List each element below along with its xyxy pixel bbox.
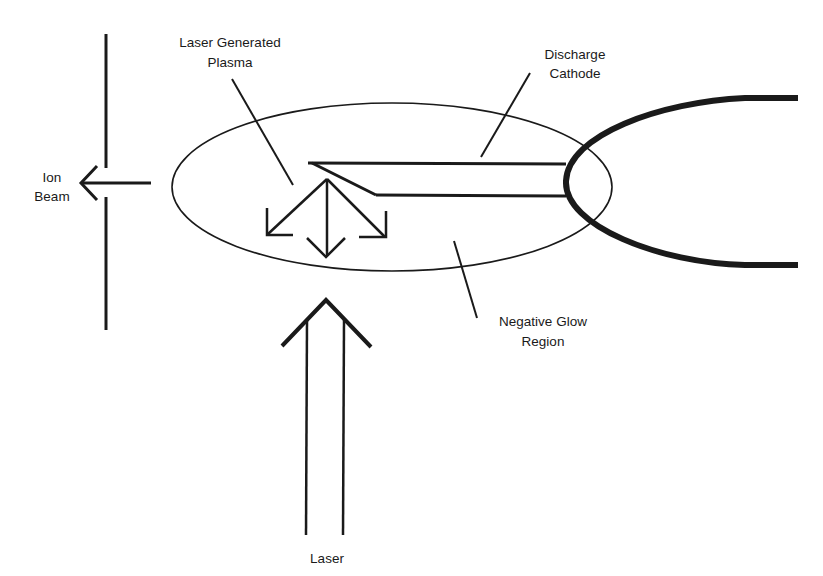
glow-label-line2: Region [522,334,565,349]
plasma-leader-line [232,79,293,185]
ion-beam-label-line2: Beam [34,189,69,204]
laser-plasma-ion-source-diagram: Laser Generated Plasma Discharge Cathode… [0,0,823,576]
negative-glow-ellipse [172,103,612,271]
ion-beam-arrow [81,166,151,200]
laser-label: Laser [310,551,344,566]
cathode-label-line1: Discharge [545,47,606,62]
ion-beam-label-line1: Ion [43,170,62,185]
cathode-needle [308,163,566,196]
glow-leader-line [454,241,477,318]
plasma-label-line1: Laser Generated [179,35,280,50]
discharge-cathode-body [566,98,798,265]
cathode-leader-line [481,73,530,157]
plasma-label-line2: Plasma [207,55,253,70]
glow-label-line1: Negative Glow [499,314,587,329]
laser-beam-arrow [282,300,371,535]
cathode-label-line2: Cathode [549,66,600,81]
